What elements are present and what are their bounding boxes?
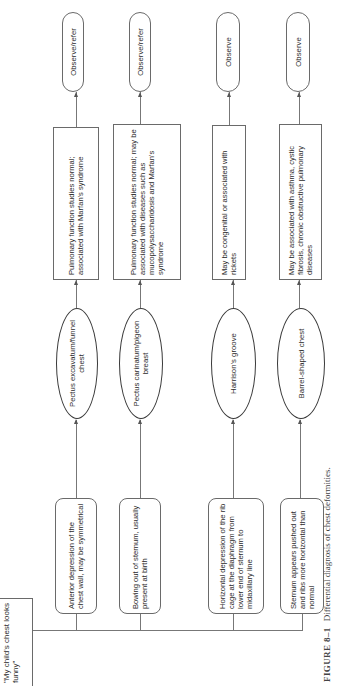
branch-connector (140, 614, 141, 631)
action-box: Observe (216, 12, 240, 92)
condition-oval: Pectus carinatum/pigeon breast (119, 308, 163, 419)
arrow-icon (138, 92, 142, 97)
branch-connector (76, 614, 77, 631)
description-box: Horizontal depression of the rib cage at… (208, 498, 264, 614)
arrow-icon (298, 419, 302, 424)
connector (76, 92, 77, 127)
condition-oval: Harrison's groove (211, 308, 256, 419)
figure-number: FIGURE 8–1 (322, 627, 332, 682)
trunk-connector (33, 630, 303, 631)
branch-connector (302, 614, 303, 631)
caption-text: Differential diagnosis of chest deformit… (322, 467, 332, 621)
arrow-icon (74, 280, 78, 285)
findings-box: May be associated with asthma, cystic fi… (279, 124, 322, 280)
arrow-icon (227, 92, 231, 97)
figure-caption: FIGURE 8–1Differential diagnosis of ches… (322, 467, 332, 682)
description-box: Bowing out of sternum, usually present a… (119, 498, 161, 614)
action-box: Observe (286, 12, 310, 92)
start-label: "My child's chest looks funny" (2, 603, 20, 683)
arrow-icon (297, 280, 301, 285)
arrow-icon (138, 280, 142, 285)
connector (140, 420, 141, 498)
start-node: "My child's chest looks funny" (0, 598, 33, 686)
description-box: Anterior depression of the chest wall, m… (55, 498, 97, 614)
flowchart: "My child's chest looks funny" Anterior … (0, 0, 346, 686)
arrow-icon (231, 419, 235, 424)
action-box: Observe/refer (62, 12, 84, 92)
arrow-icon (74, 92, 78, 97)
connector (233, 420, 234, 498)
arrow-icon (297, 92, 301, 97)
action-box: Observe/refer (129, 12, 151, 92)
condition-oval: Pectus excavatum/funnel chest (56, 308, 98, 419)
findings-box: Pulmonary function studies normal; may b… (113, 124, 181, 280)
branch-connector (233, 614, 234, 631)
connector (76, 420, 77, 498)
findings-box: May be congenital or associated with ric… (212, 125, 246, 280)
findings-box: Pulmonary function studies normal; assoc… (53, 127, 99, 280)
arrow-icon (74, 419, 78, 424)
condition-oval: Barrel-shaped chest (277, 308, 325, 419)
description-box: Sternum appears pushed out and ribs more… (280, 498, 324, 614)
connector (300, 420, 301, 498)
arrow-icon (138, 419, 142, 424)
arrow-icon (231, 280, 235, 285)
